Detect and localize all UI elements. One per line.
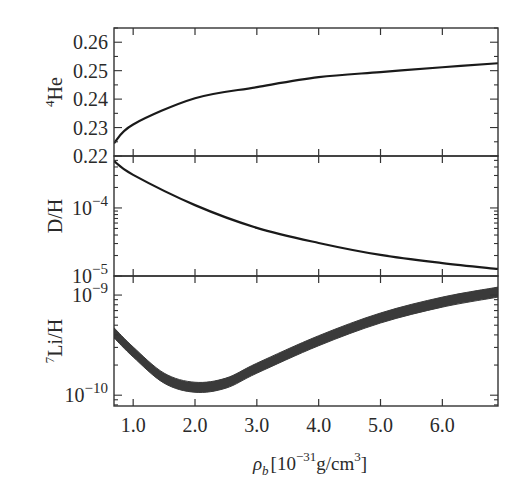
panel-frame	[114, 28, 498, 156]
x-tick-label: 1.0	[121, 414, 146, 436]
deuterium-y-label: D/H	[44, 199, 66, 233]
y-tick-label: 10−10	[65, 380, 108, 406]
y-tick-label: 0.26	[73, 31, 108, 53]
deuterium-curve	[114, 161, 498, 269]
x-axis: 1.02.03.04.05.06.0	[121, 414, 455, 436]
x-tick-label: 3.0	[244, 414, 269, 436]
bbn-abundance-chart: 0.220.230.240.250.264He10−510−4D/H10−101…	[0, 0, 524, 493]
y-tick-label: 0.23	[73, 117, 108, 139]
x-tick-label: 4.0	[306, 414, 331, 436]
x-tick-label: 2.0	[183, 414, 208, 436]
y-tick-label: 0.25	[73, 60, 108, 82]
y-tick-label: 10−4	[72, 193, 108, 219]
helium-4-y-label: 4He	[42, 77, 66, 107]
lithium-band	[114, 287, 498, 392]
chart-panels: 0.220.230.240.250.264He10−510−4D/H10−101…	[42, 28, 498, 406]
helium-4-curve	[114, 63, 498, 143]
x-tick-label: 5.0	[368, 414, 393, 436]
panel-helium-4: 0.220.230.240.250.264He	[42, 28, 498, 167]
panel-frame	[114, 156, 498, 276]
y-tick-label: 0.24	[73, 88, 108, 110]
panel-lithium-7: 10−1010−97Li/H	[42, 276, 498, 406]
y-tick-label: 10−9	[72, 280, 108, 306]
panel-deuterium: 10−510−4D/H	[44, 156, 498, 287]
lithium-7-y-label: 7Li/H	[42, 319, 66, 363]
x-axis-label: ρb[10−31g/cm3]	[252, 449, 367, 478]
x-tick-label: 6.0	[430, 414, 455, 436]
y-tick-label: 0.22	[73, 145, 108, 167]
